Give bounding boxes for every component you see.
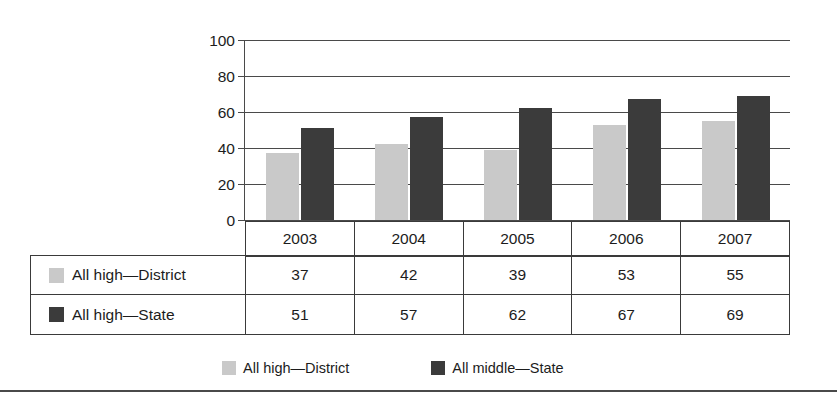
bar-district-2005: [484, 150, 517, 220]
y-tick-100: [238, 40, 245, 41]
table-row-label-state: All high—State: [31, 295, 246, 334]
y-tick-label-40: 40: [183, 140, 235, 158]
bar-state-2006: [628, 99, 661, 220]
table-cell-state-2003: 51: [246, 295, 355, 334]
table-cell-state-2006: 67: [572, 295, 681, 334]
plot-area: [245, 40, 790, 220]
table-cell-district-2003: 37: [246, 256, 355, 294]
table-cell-state-2005: 62: [464, 295, 573, 334]
y-tick-label-60: 60: [183, 104, 235, 122]
y-tick-label-0: 0: [183, 212, 235, 230]
bar-group-2007: [681, 40, 790, 220]
legend-label-state: All middle—State: [452, 360, 563, 376]
legend-swatch-icon-district: [222, 361, 236, 375]
y-tick-20: [238, 184, 245, 185]
table-row-label-district: All high—District: [31, 256, 246, 294]
bar-district-2003: [266, 153, 299, 220]
bar-district-2007: [702, 121, 735, 220]
bar-state-2007: [737, 96, 770, 220]
year-header-2007: 2007: [681, 222, 790, 256]
y-tick-80: [238, 76, 245, 77]
bottom-divider: [0, 390, 837, 392]
bar-group-2004: [354, 40, 463, 220]
legend-item-district: All high—District: [222, 360, 349, 376]
table-row: All high—State 51 57 62 67 69: [31, 295, 789, 334]
table-row: All high—District 37 42 39 53 55: [31, 256, 789, 295]
year-header-2004: 2004: [355, 222, 464, 256]
bar-state-2004: [410, 117, 443, 220]
bar-state-2003: [301, 128, 334, 220]
y-tick-label-80: 80: [183, 68, 235, 86]
year-header-row: 2003 2004 2005 2006 2007: [245, 221, 790, 257]
legend-swatch-icon-state: [431, 361, 445, 375]
y-tick-40: [238, 148, 245, 149]
bar-district-2004: [375, 144, 408, 220]
data-table: All high—District 37 42 39 53 55 All hig…: [30, 255, 790, 335]
table-cell-district-2006: 53: [572, 256, 681, 294]
table-row-label-text: All high—State: [72, 306, 175, 324]
series-swatch-icon-state: [49, 307, 64, 322]
y-tick-label-100: 100: [183, 32, 235, 50]
chart-figure: 100 80 60 40 20 0 2003 2004 2005 2006 20…: [0, 0, 837, 412]
year-header-2006: 2006: [572, 222, 681, 256]
bar-group-2003: [245, 40, 354, 220]
table-cell-district-2007: 55: [681, 256, 789, 294]
table-row-label-text: All high—District: [72, 266, 186, 284]
bar-group-2006: [572, 40, 681, 220]
table-cell-state-2004: 57: [355, 295, 464, 334]
year-header-2005: 2005: [464, 222, 573, 256]
table-cell-district-2004: 42: [355, 256, 464, 294]
table-cell-district-2005: 39: [464, 256, 573, 294]
series-swatch-icon-district: [49, 268, 64, 283]
y-tick-60: [238, 112, 245, 113]
legend-item-state: All middle—State: [431, 360, 563, 376]
legend-label-district: All high—District: [243, 360, 349, 376]
year-header-2003: 2003: [245, 222, 355, 256]
chart-legend: All high—District All middle—State: [222, 358, 564, 378]
bar-state-2005: [519, 108, 552, 220]
table-cell-state-2007: 69: [681, 295, 789, 334]
bar-district-2006: [593, 125, 626, 220]
y-tick-label-20: 20: [183, 176, 235, 194]
y-tick-0: [238, 220, 245, 221]
bar-group-2005: [463, 40, 572, 220]
